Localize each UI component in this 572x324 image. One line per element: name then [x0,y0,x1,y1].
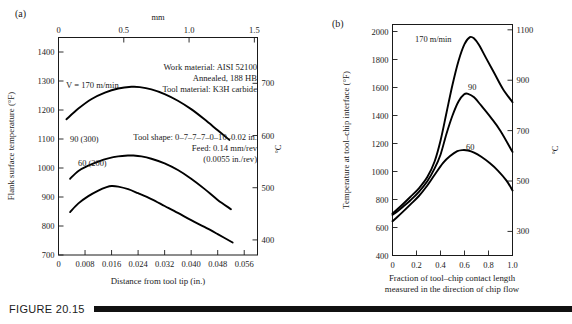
tick-label: 700 [517,126,530,136]
figure-caption-bar: FIGURE 20.15 [0,294,572,324]
tick-label: 500 [517,176,530,186]
panel-a-x-axis-ticks: 00.0080.0160.0240.0320.0400.0480.056 [56,250,253,269]
tick-label: 0.8 [483,260,494,270]
panel-b-y-axis-ticks: 400600800100012001400160018002000 [372,27,398,261]
tick-label: 0.016 [102,259,121,269]
tick-label: 0 [390,260,394,270]
tick-label: 1000 [38,163,55,173]
figure-caption-label: FIGURE 20.15 [9,303,85,315]
panel-b-curve-label-60: 60 [466,143,474,152]
panel-a-annotation-work-material: Work material: AISI 52100 [163,62,257,72]
tick-label: 1.0 [507,260,518,270]
tick-label: 900 [517,75,530,85]
panel-a-y-axis-title: Flank surface temperature (°F) [6,92,16,200]
panel-b-x-axis-title-line1: Fraction of tool–chip contact length [389,273,516,283]
panel-a-annotation-speed: V = 170 m/min [66,80,119,90]
panel-a-group: (a) mm 00.51.01.5 7008009001000110012001… [6,8,283,286]
panel-a-annotation-feed-inch: (0.0055 in./rev) [203,154,257,164]
panel-a-annotation-feed: Feed: 0.14 mm/rev [192,143,258,153]
tick-label: 400 [376,251,389,261]
figure-graphics: (a) mm 00.51.01.5 7008009001000110012001… [0,0,572,296]
panel-b-right-axis-ticks: 3005007009001100 [508,25,534,237]
data-curve-60 [70,186,233,243]
tick-label: 0.040 [182,259,201,269]
tick-label: 1300 [38,76,55,86]
panel-b-x-axis-ticks: 00.20.40.60.81.0 [390,251,517,270]
data-curve-170 [393,37,513,214]
tick-label: 0.008 [75,259,94,269]
figure-caption-rule [94,306,572,312]
panel-a-annotation-tool-material: Tool material: K3H carbide [162,84,257,94]
panel-a-curve-label-60: 60 (200) [78,159,107,168]
tick-label: 0.4 [435,260,446,270]
tick-label: 1100 [517,25,534,35]
panel-a-annotation-tool-shape: Tool shape: 0–7–7–7–0–10–0.02 in. [133,132,257,142]
tick-label: 0.032 [155,259,174,269]
panel-b-curve-label-170: 170 m/min [415,35,452,44]
tick-label: 1100 [38,134,55,144]
tick-label: 1600 [372,83,389,93]
tick-label: 800 [42,221,55,231]
panel-a-annotation-hardness: Annealed, 188 HB [193,73,257,83]
panel-a-top-axis-unit: mm [151,12,165,22]
tick-label: 1400 [372,111,389,121]
tick-label: 0.6 [459,260,470,270]
tick-label: 700 [262,78,275,88]
tick-label: 600 [376,223,389,233]
tick-label: 2000 [372,27,389,37]
tick-label: 600 [262,131,275,141]
tick-label: 1800 [372,55,389,65]
tick-label: 1.5 [249,25,260,35]
panel-b-y-axis-title: Temperature at tool–chip interface (°F) [341,71,351,209]
panel-a-right-axis-title: °C [273,144,283,153]
tick-label: 0 [56,259,60,269]
panel-b-plot-frame [393,25,513,256]
tick-label: 500 [262,183,275,193]
panel-b-x-axis-title-line2: measured in the direction of chip flow [385,284,520,294]
panel-b-label: (b) [332,18,344,30]
panel-a-x-axis-title: Distance from tool tip (in.) [111,276,206,286]
tick-label: 1200 [38,105,55,115]
tick-label: 1.0 [184,25,195,35]
tick-label: 0.024 [129,259,149,269]
panel-b-curve-label-90: 90 [468,83,476,92]
tick-label: 300 [517,226,530,236]
tick-label: 0 [56,25,60,35]
tick-label: 0.048 [208,259,227,269]
tick-label: 700 [42,250,55,260]
tick-label: 1200 [372,139,389,149]
tick-label: 900 [42,192,55,202]
tick-label: 800 [376,195,389,205]
data-curve-60 [393,150,513,221]
panel-a-top-axis-ticks: 00.51.01.5 [56,25,259,43]
tick-label: 0.056 [235,259,254,269]
tick-label: 1000 [372,167,389,177]
panel-a-curve-label-90: 90 (300) [70,135,99,144]
panel-b-curves [393,37,513,221]
tick-label: 0.2 [411,260,422,270]
panel-a-y-axis-ticks: 70080090010001100120013001400 [38,47,64,260]
panel-b-group: (b) 400600800100012001400160018002000 30… [332,18,560,294]
panel-b-right-axis-title: °C [550,145,560,154]
panel-a-label: (a) [15,8,26,20]
figure-container: (a) mm 00.51.01.5 7008009001000110012001… [0,0,572,324]
tick-label: 400 [262,235,275,245]
tick-label: 0.5 [118,25,129,35]
tick-label: 1400 [38,47,55,57]
